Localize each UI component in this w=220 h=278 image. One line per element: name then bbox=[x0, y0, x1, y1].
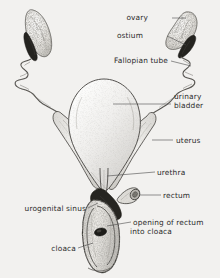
label-uterus-text: uterus bbox=[176, 136, 201, 145]
label-rectum: rectum bbox=[163, 191, 190, 200]
label-fallopian-tube-text: Fallopian tube bbox=[114, 56, 168, 65]
label-rectum-text: rectum bbox=[163, 191, 190, 200]
label-fallopian-tube: Fallopian tube bbox=[114, 56, 168, 65]
anatomy-figure: ovary ostium Fallopian tube urinary blad… bbox=[0, 0, 220, 278]
label-urogenital-sinus: urogenital sinus bbox=[25, 204, 86, 213]
label-urinary-bladder: urinary bladder bbox=[174, 92, 204, 110]
label-uterus: uterus bbox=[176, 136, 201, 145]
label-urogenital-sinus-text: urogenital sinus bbox=[25, 204, 86, 213]
label-ovary-text: ovary bbox=[126, 13, 148, 22]
label-ovary: ovary bbox=[126, 13, 148, 22]
label-ostium-text: ostium bbox=[117, 31, 143, 40]
label-urethra-text: urethra bbox=[157, 168, 185, 177]
label-urinary-bladder-line2: bladder bbox=[174, 101, 204, 110]
label-opening-of-rectum-line1: opening of rectum bbox=[133, 218, 204, 227]
label-ostium: ostium bbox=[117, 31, 143, 40]
label-urethra: urethra bbox=[157, 168, 185, 177]
label-cloaca-text: cloaca bbox=[51, 244, 76, 253]
label-urinary-bladder-line1: urinary bbox=[174, 92, 202, 101]
label-opening-of-rectum-line2: into cloaca bbox=[130, 227, 172, 236]
label-cloaca: cloaca bbox=[51, 244, 76, 253]
